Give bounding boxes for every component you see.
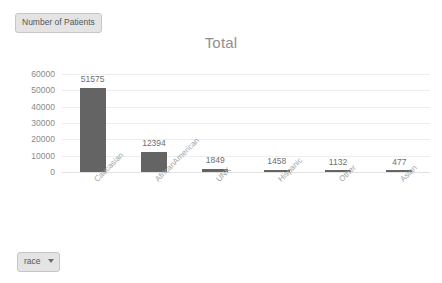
bar-group: 1458Hispanic bbox=[246, 74, 307, 172]
race-filter-label: race bbox=[24, 257, 41, 266]
gridline bbox=[62, 172, 430, 173]
race-filter-dropdown[interactable]: race bbox=[17, 252, 60, 272]
y-axis-tick-label: 60000 bbox=[3, 70, 55, 79]
bar-group: 12394AfricanAmerican bbox=[123, 74, 184, 172]
chart-title: Total bbox=[0, 34, 442, 51]
bar-group: 1849UNK bbox=[185, 74, 246, 172]
measure-pill-label: Number of Patients bbox=[22, 18, 95, 27]
y-axis-tick-label: 10000 bbox=[3, 151, 55, 160]
bar-value-label: 1849 bbox=[206, 156, 225, 165]
bar-group: 1132Other bbox=[307, 74, 368, 172]
x-axis-category-label: Other bbox=[338, 164, 358, 184]
x-axis-category-label: Asian bbox=[399, 164, 419, 184]
bar[interactable] bbox=[80, 88, 106, 172]
y-axis-tick-label: 40000 bbox=[3, 102, 55, 111]
y-axis-tick-label: 0 bbox=[3, 168, 55, 177]
bar-group: 51575Caucasian bbox=[62, 74, 123, 172]
bar-value-label: 1132 bbox=[329, 158, 347, 167]
bar-value-label: 477 bbox=[392, 158, 406, 167]
plot-area: 600005000040000300002000010000051575Cauc… bbox=[62, 74, 430, 172]
y-axis-tick-label: 30000 bbox=[3, 119, 55, 128]
bar-group: 477Asian bbox=[369, 74, 430, 172]
measure-pill[interactable]: Number of Patients bbox=[15, 13, 102, 33]
y-axis-tick-label: 50000 bbox=[3, 86, 55, 95]
bar-chart: Total 6000050000400003000020000100000515… bbox=[0, 34, 442, 239]
bar-value-label: 1458 bbox=[267, 157, 286, 166]
chevron-down-icon bbox=[48, 259, 54, 263]
y-axis-tick-label: 20000 bbox=[3, 135, 55, 144]
bar-value-label: 12394 bbox=[142, 139, 166, 148]
bar-value-label: 51575 bbox=[81, 75, 105, 84]
